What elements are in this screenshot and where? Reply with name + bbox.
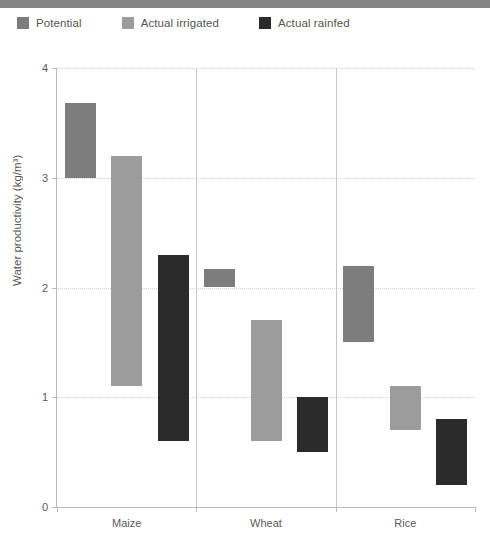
x-tick-mark [336, 507, 337, 512]
legend-label-actual-rainfed: Actual rainfed [278, 17, 350, 29]
y-tick-label: 4 [42, 62, 57, 74]
y-tick-label: 2 [42, 282, 57, 294]
bar [297, 397, 328, 452]
bar [436, 419, 467, 485]
x-category-label: Rice [394, 517, 416, 529]
legend-item-actual-irrigated: Actual irrigated [122, 17, 219, 29]
chart-figure: Potential Actual irrigated Actual rainfe… [0, 0, 490, 541]
y-tick-label: 3 [42, 172, 57, 184]
x-tick-mark [475, 507, 476, 512]
bar [251, 320, 282, 441]
legend-swatch-actual-rainfed [259, 17, 271, 29]
y-tick-label: 0 [42, 501, 57, 513]
x-category-label: Maize [112, 517, 141, 529]
x-tick-mark [196, 507, 197, 512]
bar [111, 156, 142, 386]
y-axis-title: Water productivity (kg/m³) [11, 0, 23, 440]
bar [343, 266, 374, 343]
gridline [57, 68, 475, 69]
bar [158, 255, 189, 442]
legend-item-potential: Potential [17, 17, 82, 29]
group-separator [336, 68, 337, 507]
y-tick-label: 1 [42, 391, 57, 403]
bar [65, 103, 96, 178]
legend-label-actual-irrigated: Actual irrigated [141, 17, 219, 29]
x-category-label: Wheat [250, 517, 282, 529]
plot-area: 01234MaizeWheatRice [56, 68, 475, 508]
bar [390, 386, 421, 430]
bar [204, 269, 235, 288]
legend-label-potential: Potential [36, 17, 82, 29]
chart-legend: Potential Actual irrigated Actual rainfe… [17, 17, 390, 29]
x-tick-mark [57, 507, 58, 512]
top-rule [0, 0, 490, 8]
legend-swatch-actual-irrigated [122, 17, 134, 29]
group-separator [196, 68, 197, 507]
legend-item-actual-rainfed: Actual rainfed [259, 17, 350, 29]
